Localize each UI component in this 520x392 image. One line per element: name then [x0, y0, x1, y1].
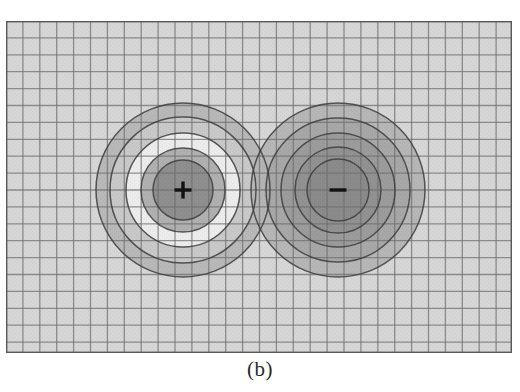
contour-plot-svg [6, 21, 512, 353]
paper-texture-overlay [6, 21, 512, 353]
figure-caption: (b) [0, 357, 520, 382]
figure-panel-b: (b) [0, 0, 520, 392]
contour-plot-area [6, 21, 512, 353]
